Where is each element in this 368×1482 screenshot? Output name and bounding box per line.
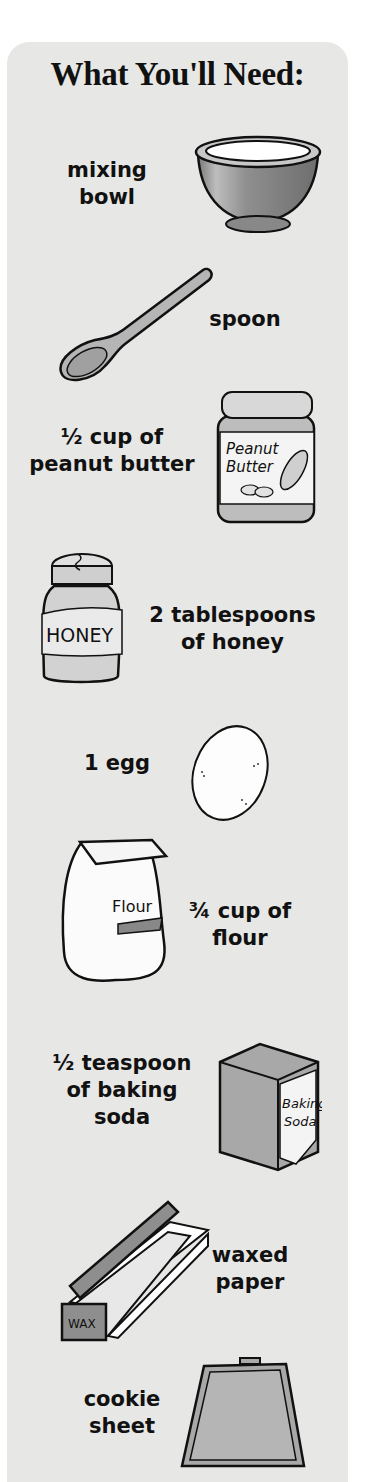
item-label-cookie-sheet: cookie sheet bbox=[72, 1386, 172, 1440]
svg-text:Butter: Butter bbox=[226, 458, 274, 476]
svg-text:WAX: WAX bbox=[68, 1317, 96, 1331]
svg-text:HONEY: HONEY bbox=[46, 624, 113, 646]
svg-text:Flour: Flour bbox=[112, 897, 153, 916]
waxed-paper-box-icon: WAX bbox=[58, 1186, 218, 1346]
item-label-waxed-paper: waxed paper bbox=[205, 1242, 295, 1296]
item-label-peanut-butter: ½ cup of peanut butter bbox=[22, 424, 202, 478]
flour-bag-icon: Flour bbox=[56, 832, 172, 987]
item-label-mixing-bowl: mixing bowl bbox=[42, 157, 172, 211]
item-label-baking-soda: ½ teaspoon of baking soda bbox=[42, 1050, 202, 1131]
svg-text:Soda: Soda bbox=[284, 1114, 316, 1129]
honey-jar-icon: HONEY bbox=[38, 546, 128, 688]
cookie-sheet-icon bbox=[174, 1354, 308, 1470]
mixing-bowl-icon bbox=[190, 132, 326, 238]
svg-text:Baking: Baking bbox=[282, 1096, 322, 1111]
egg-icon bbox=[188, 720, 272, 826]
item-label-spoon: spoon bbox=[200, 306, 290, 333]
peanut-butter-jar-icon: Peanut Butter bbox=[212, 388, 322, 528]
page-title: What You'll Need: bbox=[7, 56, 348, 93]
item-label-flour: ¾ cup of flour bbox=[180, 898, 300, 952]
baking-soda-box-icon: Baking Soda bbox=[216, 1022, 322, 1172]
item-label-honey: 2 tablespoons of honey bbox=[145, 602, 320, 656]
svg-text:Peanut: Peanut bbox=[226, 440, 279, 458]
item-label-egg: 1 egg bbox=[72, 750, 162, 777]
spoon-icon bbox=[55, 262, 215, 387]
